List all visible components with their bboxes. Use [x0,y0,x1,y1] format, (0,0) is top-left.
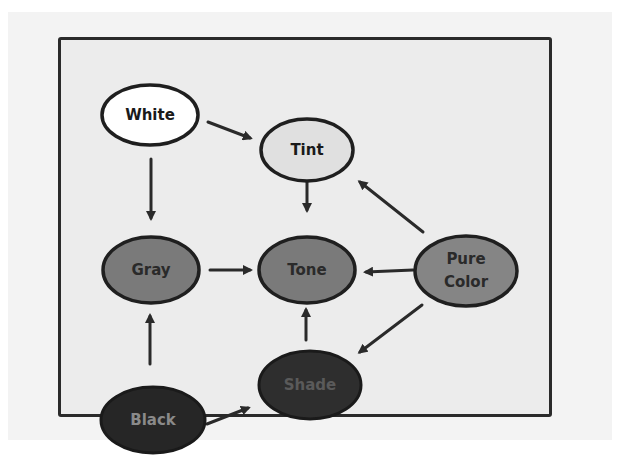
node-tint: Tint [261,119,353,181]
node-shade: Shade [259,351,361,419]
node-gray-label: Gray [131,261,170,279]
node-pure-color-label-line2: Color [444,273,489,291]
color-relationship-diagram: White Tint Gray Tone Pure Color Black Sh… [0,0,622,455]
edge-pure-color-to-tone [366,270,413,272]
edge-black-to-shade [207,408,248,424]
node-gray: Gray [103,237,199,303]
node-pure-color-label-line1: Pure [446,250,485,268]
node-black: Black [101,387,205,453]
node-tint-label: Tint [290,141,323,159]
edge-pure-color-to-shade [360,305,422,352]
edge-pure-color-to-tint [360,182,423,232]
edge-white-to-tint [208,122,250,138]
node-white: White [102,85,198,145]
node-shade-label: Shade [284,376,337,394]
node-pure-color: Pure Color [415,236,517,306]
node-white-label: White [125,106,175,124]
node-black-label: Black [130,411,177,429]
node-tone: Tone [259,237,355,303]
node-tone-label: Tone [287,261,326,279]
